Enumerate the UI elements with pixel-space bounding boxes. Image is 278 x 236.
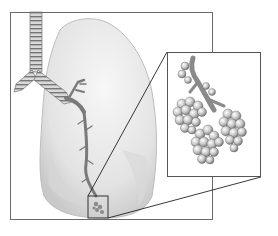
alveoli-cluster-right: [219, 109, 247, 152]
alveoli-cluster-left: [173, 97, 207, 134]
alveoli-cluster-middle: [191, 125, 224, 164]
lung-illustration: [0, 0, 278, 236]
alveoli-drawing: [0, 0, 278, 236]
